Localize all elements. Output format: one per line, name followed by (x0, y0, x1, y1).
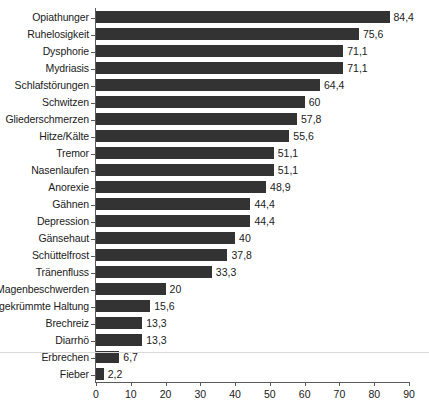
bar-value-label: 44,4 (254, 216, 274, 227)
bar-value-label: 71,1 (347, 46, 367, 57)
bar-and-value: 57,8 (96, 113, 321, 125)
bar-row: Anorexie48,9 (0, 179, 429, 196)
bar-and-value: 48,9 (96, 181, 291, 193)
bar (96, 96, 305, 108)
bar-category-label: Depression (0, 216, 89, 227)
x-axis-tick-mark (409, 382, 410, 386)
bar-and-value: 15,6 (96, 300, 175, 312)
bar-and-value: 6,7 (96, 351, 138, 363)
y-axis-tick-mark (91, 120, 95, 121)
x-axis-tick-mark (374, 382, 375, 386)
y-axis-tick-mark (91, 86, 95, 87)
bar-and-value: 33,3 (96, 266, 236, 278)
x-axis-tick-mark (339, 382, 340, 386)
bar-row: Ruhelosigkeit75,6 (0, 26, 429, 43)
bar-category-label: Brechreiz (0, 318, 89, 329)
bar-row: Gliederschmerzen57,8 (0, 111, 429, 128)
bar-value-label: 20 (170, 284, 182, 295)
bar-and-value: 40 (96, 232, 251, 244)
bar (96, 266, 212, 278)
y-axis-tick-mark (91, 273, 95, 274)
bar-category-label: Schwitzen (0, 97, 89, 108)
bar-value-label: 40 (239, 233, 251, 244)
y-axis-tick-mark (91, 188, 95, 189)
y-axis-tick-mark (91, 358, 95, 359)
bar-and-value: 44,4 (96, 215, 275, 227)
bar-row: Tremor51,1 (0, 145, 429, 162)
bar-category-label: Magenbeschwerden (0, 284, 89, 295)
bar (96, 164, 274, 176)
bar-value-label: 60 (309, 97, 321, 108)
bar-and-value: 60 (96, 96, 320, 108)
bar-and-value: 44,4 (96, 198, 275, 210)
x-axis-tick-label: 60 (299, 388, 311, 400)
bar-value-label: 6,7 (123, 352, 138, 363)
x-axis-tick-label: 90 (403, 388, 415, 400)
bar (96, 198, 250, 210)
bar-and-value: 20 (96, 283, 181, 295)
bar-row: Fieber2,2 (0, 366, 429, 383)
bar (96, 79, 320, 91)
y-axis-tick-mark (91, 324, 95, 325)
bar (96, 45, 343, 57)
x-axis-ticks: 0102030405060708090 (0, 382, 429, 412)
y-axis-tick-mark (91, 154, 95, 155)
bar-and-value: 37,8 (96, 249, 252, 261)
x-axis-tick-mark (235, 382, 236, 386)
bar (96, 28, 359, 40)
bar (96, 249, 227, 261)
bar-and-value: 84,4 (96, 11, 414, 23)
bar (96, 147, 274, 159)
x-axis-tick-label: 10 (125, 388, 137, 400)
bar-and-value: 64,4 (96, 79, 344, 91)
bar-and-value: 75,6 (96, 28, 383, 40)
bar-value-label: 13,3 (146, 335, 166, 346)
bar-category-label: Ruhelosigkeit (0, 29, 89, 40)
bar (96, 62, 343, 74)
y-axis-tick-mark (91, 239, 95, 240)
bar-and-value: 13,3 (96, 317, 167, 329)
y-axis-tick-mark (91, 52, 95, 53)
bar-value-label: 51,1 (278, 148, 298, 159)
x-axis-tick-label: 50 (264, 388, 276, 400)
bar (96, 334, 142, 346)
y-axis-tick-mark (91, 137, 95, 138)
bar (96, 300, 150, 312)
x-axis-tick-label: 70 (334, 388, 346, 400)
bar-category-label: Tremor (0, 148, 89, 159)
bar (96, 181, 266, 193)
bar-category-label: Anorexie (0, 182, 89, 193)
bar-row: Schlafstörungen64,4 (0, 77, 429, 94)
bar-row: Schüttelfrost37,8 (0, 247, 429, 264)
bar-value-label: 75,6 (363, 29, 383, 40)
bar-category-label: Nasenlaufen (0, 165, 89, 176)
bar-value-label: 2,2 (108, 369, 123, 380)
bar-row: Schwitzen60 (0, 94, 429, 111)
bar-category-label: gekrümmte Haltung (0, 301, 89, 312)
x-axis-tick-mark (131, 382, 132, 386)
bar-rows: Opiathunger84,4Ruhelosigkeit75,6Dysphori… (0, 9, 429, 383)
x-axis-tick-label: 30 (194, 388, 206, 400)
x-axis-tick-mark (166, 382, 167, 386)
bar-value-label: 84,4 (394, 12, 414, 23)
y-axis-tick-mark (91, 290, 95, 291)
bar-value-label: 48,9 (270, 182, 290, 193)
bar-row: Mydriasis71,1 (0, 60, 429, 77)
y-axis-tick-mark (91, 171, 95, 172)
x-axis-tick-label: 0 (93, 388, 99, 400)
bar-category-label: Diarrhö (0, 335, 89, 346)
bar-value-label: 51,1 (278, 165, 298, 176)
bar-value-label: 13,3 (146, 318, 166, 329)
bar-row: Hitze/Kälte55,6 (0, 128, 429, 145)
x-axis-tick-label: 20 (160, 388, 172, 400)
plot-area: Opiathunger84,4Ruhelosigkeit75,6Dysphori… (0, 0, 429, 412)
bar-row: Diarrhö13,3 (0, 332, 429, 349)
bar-category-label: Gänsehaut (0, 233, 89, 244)
bar-row: Magenbeschwerden20 (0, 281, 429, 298)
bar-category-label: Schlafstörungen (0, 80, 89, 91)
y-axis-tick-mark (91, 205, 95, 206)
bar-category-label: Gliederschmerzen (0, 114, 89, 125)
bar-category-label: Erbrechen (0, 352, 89, 363)
bar-value-label: 57,8 (301, 114, 321, 125)
bar-value-label: 37,8 (231, 250, 251, 261)
